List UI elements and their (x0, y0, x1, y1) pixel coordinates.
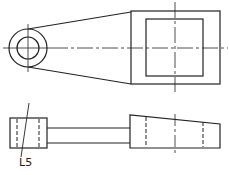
leader (21, 103, 29, 157)
annotation-label: L5 (19, 157, 32, 168)
upper-tangent-edge (28, 12, 131, 29)
inner-square-pocket (146, 19, 203, 76)
section-leader-line (21, 103, 29, 157)
drawing-canvas: L5 (0, 0, 229, 175)
front-view (10, 115, 220, 148)
top-view-centerlines (3, 2, 228, 92)
lower-tangent-edge (28, 67, 131, 84)
technical-drawing (0, 0, 229, 175)
top-view (9, 11, 220, 84)
boss-side-outline (10, 118, 47, 148)
outer-block-outline (131, 11, 220, 84)
